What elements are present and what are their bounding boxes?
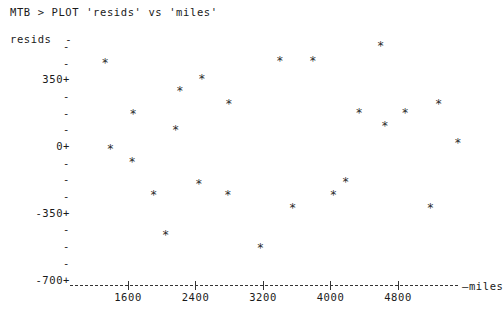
y-axis-tick: 0+ xyxy=(0,141,70,151)
y-axis-tick: - xyxy=(0,174,70,184)
y-axis-tick: - xyxy=(0,191,70,201)
x-axis-tick xyxy=(195,281,196,290)
scatter-plot-area: ************************* xyxy=(70,34,488,285)
x-axis-tick-label: 4000 xyxy=(311,291,351,303)
data-point: * xyxy=(105,144,116,155)
x-axis-tick-label: 3200 xyxy=(243,291,283,303)
x-axis-tick xyxy=(128,281,129,290)
data-point: * xyxy=(354,108,365,119)
y-axis-tick: - xyxy=(0,108,70,118)
data-point: * xyxy=(452,138,463,149)
y-axis-tick: - xyxy=(0,41,70,51)
command-echo-line: MTB > PLOT 'resids' vs 'miles' xyxy=(10,6,218,18)
data-point: * xyxy=(375,41,386,52)
data-point: * xyxy=(127,157,138,168)
y-axis-tick: - xyxy=(0,124,70,134)
y-axis-tick: -350+ xyxy=(0,208,70,218)
x-axis-tick-label: 2400 xyxy=(176,291,216,303)
data-point: * xyxy=(174,86,185,97)
x-axis-tick xyxy=(398,281,399,290)
y-axis-tick: - xyxy=(0,258,70,268)
x-axis-title: —miles xyxy=(462,280,504,292)
data-point: * xyxy=(223,99,234,110)
data-point: * xyxy=(100,58,111,69)
data-point: * xyxy=(255,243,266,254)
data-point: * xyxy=(196,74,207,85)
data-point: * xyxy=(433,99,444,110)
x-axis-tick-label: 4800 xyxy=(378,291,418,303)
data-point: * xyxy=(287,203,298,214)
y-axis-tick: - xyxy=(0,58,70,68)
y-axis-tick: - xyxy=(0,241,70,251)
x-axis-tick-label: 1600 xyxy=(108,291,148,303)
data-point: * xyxy=(307,56,318,67)
data-point: * xyxy=(222,190,233,201)
data-point: * xyxy=(379,121,390,132)
y-axis-tick: -700+ xyxy=(0,275,70,285)
data-point: * xyxy=(425,203,436,214)
x-axis-tick xyxy=(330,281,331,290)
data-point: * xyxy=(328,190,339,201)
data-point: * xyxy=(193,179,204,190)
data-point: * xyxy=(160,230,171,241)
x-axis-tick xyxy=(263,281,264,290)
y-axis-tick: - xyxy=(0,158,70,168)
data-point: * xyxy=(148,190,159,201)
x-axis-line xyxy=(70,285,460,286)
data-point: * xyxy=(274,56,285,67)
y-axis-tick: - xyxy=(0,224,70,234)
y-axis-tick: - xyxy=(0,91,70,101)
data-point: * xyxy=(170,125,181,136)
data-point: * xyxy=(400,108,411,119)
x-axis: —miles 16002400320040004800 xyxy=(70,280,488,292)
data-point: * xyxy=(340,177,351,188)
y-axis-tick: 350+ xyxy=(0,74,70,84)
data-point: * xyxy=(128,109,139,120)
